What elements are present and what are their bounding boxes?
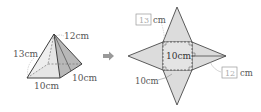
unit-slant-height: cm [240, 68, 253, 78]
label-base-front: 10cm [34, 81, 59, 91]
net-base-edge-label: 10cm [135, 76, 159, 86]
label-base-side: 10cm [72, 73, 97, 83]
net-top-triangle [163, 7, 192, 42]
answer-slant-height: 12 [225, 69, 235, 78]
net-bottom-triangle [163, 70, 192, 105]
leader-line [210, 62, 221, 72]
answer-lateral-edge: 13 [139, 16, 149, 25]
unit-lateral-edge: cm [153, 15, 166, 25]
label-slant-height: 12cm [64, 31, 89, 41]
right-arrow-icon [103, 52, 114, 61]
answer-box-lateral-edge: 13 [136, 14, 151, 25]
answer-box-slant-height: 12 [222, 67, 237, 78]
net-square-label: 10cm [166, 51, 191, 61]
leader-line [56, 35, 64, 36]
pyramid-net-figure: 12cm 13cm 10cm 10cm 10cm 10cm 13 cm 1 [0, 0, 261, 112]
net-left-triangle [128, 42, 163, 70]
label-lateral-edge: 13cm [13, 49, 38, 59]
